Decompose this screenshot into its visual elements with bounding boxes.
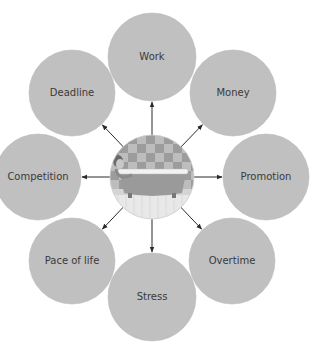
node-pace-of-life: Pace of life bbox=[29, 218, 115, 304]
node-label: Promotion bbox=[241, 171, 292, 182]
arrow-to-money bbox=[178, 125, 202, 150]
arrow-to-pace-of-life bbox=[102, 205, 125, 230]
arrow-to-overtime bbox=[178, 205, 201, 230]
node-label: Deadline bbox=[50, 87, 94, 98]
node-label: Money bbox=[216, 87, 249, 98]
node-label: Stress bbox=[137, 291, 168, 302]
node-promotion: Promotion bbox=[223, 134, 309, 220]
node-label: Competition bbox=[7, 171, 68, 182]
node-stress: Stress bbox=[108, 253, 196, 341]
bathtub-illustration-icon bbox=[110, 135, 200, 225]
node-deadline: Deadline bbox=[29, 50, 115, 136]
node-label: Work bbox=[139, 51, 165, 62]
node-competition: Competition bbox=[0, 134, 81, 220]
node-money: Money bbox=[190, 50, 276, 136]
stress-factors-diagram: WorkMoneyPromotionOvertimeStressPace of … bbox=[0, 0, 314, 348]
center-image bbox=[110, 135, 200, 225]
node-work: Work bbox=[108, 13, 196, 101]
node-label: Pace of life bbox=[45, 255, 100, 266]
arrow-to-deadline bbox=[102, 125, 125, 150]
node-overtime: Overtime bbox=[189, 218, 275, 304]
node-label: Overtime bbox=[209, 255, 256, 266]
